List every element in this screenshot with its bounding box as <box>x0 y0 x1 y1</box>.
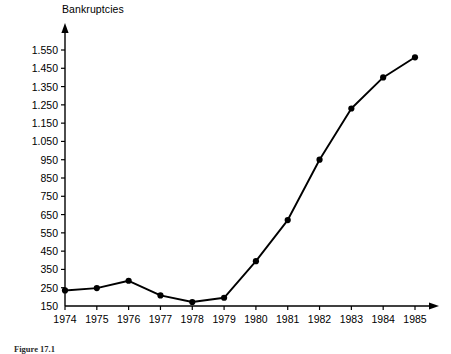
data-point-marker <box>253 258 259 264</box>
bankruptcies-line-chart-figure: Bankruptcies 150250350450550650750850950… <box>0 0 451 354</box>
data-point-marker <box>157 292 163 298</box>
data-point-marker <box>412 54 418 60</box>
data-series-line <box>65 57 415 302</box>
data-point-marker <box>94 285 100 291</box>
figure-caption: Figure 17.1 <box>14 344 55 354</box>
data-point-marker <box>285 217 291 223</box>
data-point-marker <box>380 74 386 80</box>
x-axis-arrow-icon <box>429 302 439 309</box>
data-point-markers <box>62 54 418 305</box>
data-point-marker <box>348 105 354 111</box>
plot-area <box>0 0 451 354</box>
data-point-marker <box>189 299 195 305</box>
data-point-marker <box>62 287 68 293</box>
y-axis-arrow-icon <box>61 23 68 33</box>
data-point-marker <box>221 295 227 301</box>
data-point-marker <box>316 157 322 163</box>
data-point-marker <box>126 278 132 284</box>
